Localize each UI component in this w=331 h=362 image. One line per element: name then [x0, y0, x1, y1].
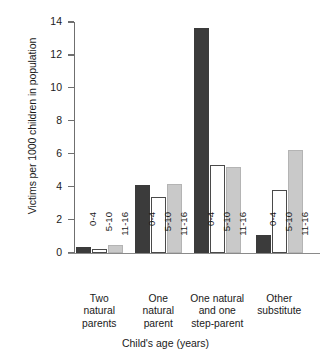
group-label-line: step-parent	[174, 318, 260, 330]
age-tick-label: 11-16	[237, 212, 248, 256]
age-tick-label: 5-10	[103, 212, 114, 256]
age-tick-label: 0-4	[146, 212, 157, 256]
y-tick-label: 2	[36, 213, 62, 225]
y-tick-label: 12	[36, 48, 62, 60]
y-tick-mark	[68, 54, 74, 55]
age-tick-label: 5-10	[162, 212, 173, 256]
group-label-4: Othersubstitute	[236, 293, 322, 318]
age-tick-label: 0-4	[267, 212, 278, 256]
group-label-line: Other	[236, 293, 322, 305]
y-tick-mark	[68, 219, 74, 220]
y-tick-mark	[68, 21, 74, 22]
y-tick-label: 14	[36, 15, 62, 27]
y-tick-label: 8	[36, 114, 62, 126]
y-tick-label: 6	[36, 147, 62, 159]
y-tick-mark	[68, 87, 74, 88]
x-axis-title: Child's age (years)	[0, 337, 331, 349]
group-label-line: substitute	[236, 305, 322, 317]
y-tick-mark	[68, 153, 74, 154]
age-tick-label: 0-4	[87, 212, 98, 256]
y-tick-mark	[68, 120, 74, 121]
bar-chart: Victims per 1000 children in population …	[0, 0, 331, 362]
y-axis-line	[74, 22, 75, 253]
age-tick-label: 11-16	[299, 212, 310, 256]
age-tick-label: 11-16	[178, 212, 189, 256]
y-axis-title: Victims per 1000 children in population	[26, 10, 38, 242]
y-tick-mark	[68, 186, 74, 187]
y-tick-label: 10	[36, 81, 62, 93]
y-tick-label: 4	[36, 180, 62, 192]
y-tick-mark	[68, 252, 74, 253]
y-tick-label: 0	[36, 246, 62, 258]
age-tick-label: 11-16	[119, 212, 130, 256]
age-tick-label: 0-4	[205, 212, 216, 256]
age-tick-label: 5-10	[283, 212, 294, 256]
age-tick-label: 5-10	[221, 212, 232, 256]
